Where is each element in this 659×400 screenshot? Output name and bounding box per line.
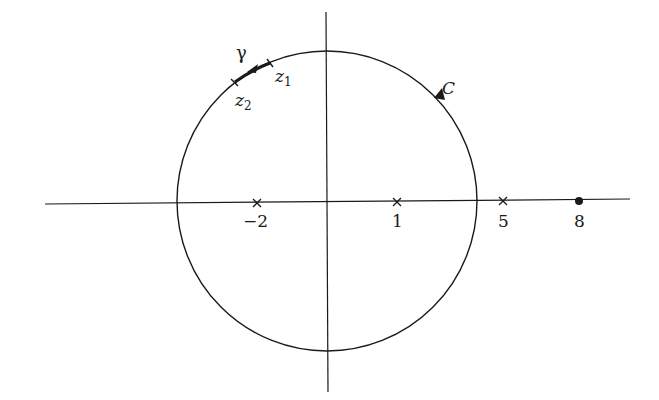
tick-label-1: 1	[392, 213, 403, 230]
tick-label-neg2: −2	[243, 213, 268, 230]
z2-label: z2	[235, 92, 252, 112]
tick-label-8: 8	[574, 213, 585, 230]
z1-label: z1	[275, 68, 292, 88]
real-axis	[45, 199, 630, 204]
contour-label: C	[442, 80, 455, 97]
dot-marker-8	[575, 197, 583, 205]
gamma-label: γ	[236, 44, 247, 62]
tick-label-5: 5	[498, 213, 509, 230]
diagram: γ z1 z2 C −2 1 5 8	[0, 0, 659, 400]
diagram-canvas	[0, 0, 659, 400]
gamma-arrow-icon	[247, 64, 258, 73]
